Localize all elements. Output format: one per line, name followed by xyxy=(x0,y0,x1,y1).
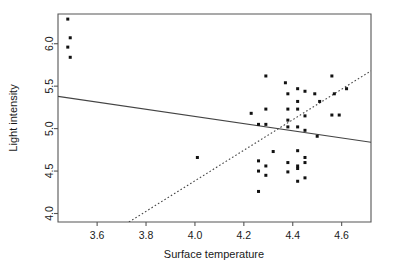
data-point xyxy=(257,190,260,193)
y-tick-label: 5.5 xyxy=(43,79,55,94)
data-point xyxy=(330,114,333,117)
data-point xyxy=(286,119,289,122)
x-tick-label: 4.2 xyxy=(237,229,252,241)
y-tick-label: 4.5 xyxy=(43,164,55,179)
data-point xyxy=(333,92,336,95)
data-point xyxy=(345,87,348,90)
data-point xyxy=(264,174,267,177)
data-point xyxy=(296,108,299,111)
y-tick-label: 6.0 xyxy=(43,36,55,51)
data-point xyxy=(257,123,260,126)
data-point xyxy=(296,167,299,170)
x-tick-label: 4.6 xyxy=(334,229,349,241)
data-point xyxy=(286,92,289,95)
data-point xyxy=(303,176,306,179)
data-point xyxy=(303,156,306,159)
y-axis-title: Light intensity xyxy=(7,84,19,152)
data-point xyxy=(272,150,275,153)
data-point xyxy=(303,114,306,117)
data-point xyxy=(69,56,72,59)
x-axis-title: Surface temperature xyxy=(164,248,264,260)
data-point xyxy=(286,170,289,173)
data-point xyxy=(296,87,299,90)
data-point xyxy=(303,161,306,164)
data-point xyxy=(296,180,299,183)
data-point xyxy=(69,36,72,39)
data-point xyxy=(66,46,69,49)
data-point xyxy=(264,74,267,77)
y-tick-label: 5.0 xyxy=(43,121,55,136)
data-point xyxy=(286,108,289,111)
data-point xyxy=(66,18,69,21)
data-point xyxy=(318,100,321,103)
data-point xyxy=(330,74,333,77)
x-tick-label: 3.8 xyxy=(139,229,154,241)
data-point xyxy=(296,125,299,128)
data-point xyxy=(338,114,341,117)
data-point xyxy=(296,100,299,103)
data-point xyxy=(286,161,289,164)
data-point xyxy=(257,170,260,173)
scatter-plot-figure: 3.63.84.04.24.44.6 4.04.55.05.56.0 Surfa… xyxy=(0,0,395,269)
data-point xyxy=(250,112,253,115)
data-point xyxy=(264,108,267,111)
y-tick-label: 4.0 xyxy=(43,206,55,221)
data-point xyxy=(264,123,267,126)
x-tick-label: 4.0 xyxy=(188,229,203,241)
data-point xyxy=(296,149,299,152)
x-tick-label: 4.4 xyxy=(285,229,300,241)
data-point xyxy=(316,135,319,138)
x-tick-label: 3.6 xyxy=(90,229,105,241)
data-point xyxy=(303,90,306,93)
data-point xyxy=(313,92,316,95)
data-point xyxy=(196,156,199,159)
data-point xyxy=(257,159,260,162)
data-point xyxy=(286,125,289,128)
plot-canvas: 3.63.84.04.24.44.6 4.04.55.05.56.0 Surfa… xyxy=(0,0,395,269)
data-point xyxy=(303,129,306,132)
data-point xyxy=(264,164,267,167)
data-point xyxy=(284,81,287,84)
